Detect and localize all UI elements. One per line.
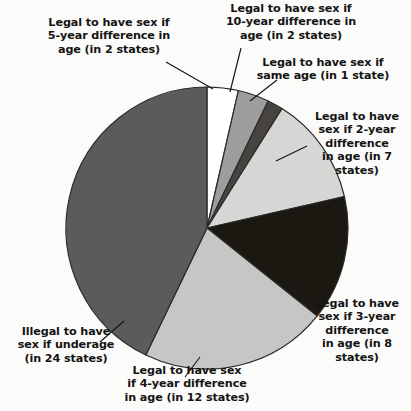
leader-line-five-year — [166, 62, 213, 89]
leader-line-same-age — [250, 80, 277, 101]
pie-chart-page: Legal to have sex if 5-year difference i… — [0, 0, 411, 411]
slice-label-four-year: Legal to have sex if 4-year difference i… — [107, 364, 267, 404]
slice-label-two-year: Legal to have sex if 2-year difference i… — [306, 110, 408, 177]
slice-label-five-year: Legal to have sex if 5-year difference i… — [33, 16, 185, 56]
slice-label-three-year: Legal to have sex if 3-year difference i… — [305, 297, 409, 364]
leader-line-ten-year — [230, 48, 241, 92]
slice-label-same-age: Legal to have sex if same age (in 1 stat… — [243, 56, 403, 83]
slice-label-ten-year: Legal to have sex if 10-year difference … — [216, 2, 366, 42]
slice-label-illegal: Illegal to have sex if underage (in 24 s… — [2, 325, 130, 365]
